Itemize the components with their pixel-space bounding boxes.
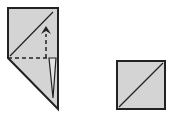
origami-diagram xyxy=(0,0,172,119)
step-1-folded-paper xyxy=(8,8,58,109)
step-2-square xyxy=(117,61,165,109)
